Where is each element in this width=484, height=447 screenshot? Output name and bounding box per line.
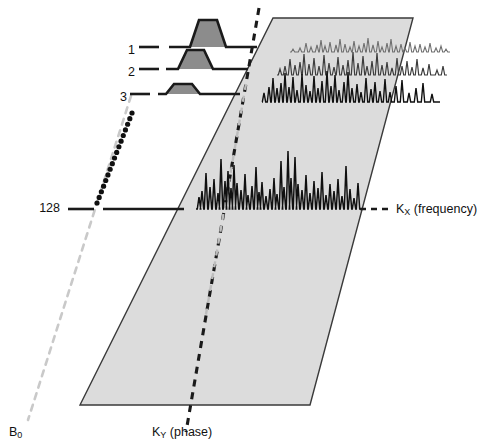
- continuation-dot: [108, 167, 113, 172]
- continuation-dot: [99, 189, 104, 194]
- continuation-dot: [97, 195, 102, 200]
- phase-encode-row-2: [139, 50, 248, 69]
- continuation-dot: [127, 116, 132, 121]
- ky-axis-label-suffix: (phase): [166, 425, 212, 439]
- rows-continuation-dots: [94, 110, 134, 205]
- continuation-dot: [112, 155, 117, 160]
- ky-axis-label: KY (phase): [152, 426, 212, 440]
- row-label-1: 1: [121, 44, 135, 57]
- continuation-dot: [114, 150, 119, 155]
- row-label-3: 3: [113, 91, 127, 104]
- continuation-dot: [94, 200, 99, 205]
- phase-encode-row-3: [130, 84, 240, 94]
- continuation-dot: [129, 110, 134, 115]
- kx-axis-label-suffix: (frequency): [410, 202, 477, 216]
- phase-encode-row-1: [139, 20, 257, 47]
- continuation-dot: [116, 144, 121, 149]
- continuation-dot: [105, 172, 110, 177]
- b0-axis-label: B0: [9, 426, 22, 440]
- continuation-dot: [103, 178, 108, 183]
- continuation-dot: [110, 161, 115, 166]
- kx-axis-label: KX (frequency): [396, 203, 477, 217]
- row-label-128: 128: [28, 202, 60, 215]
- continuation-dot: [101, 184, 106, 189]
- row-label-2: 2: [121, 66, 135, 79]
- continuation-dot: [118, 139, 123, 144]
- b0-axis-label-subscript: 0: [17, 430, 22, 440]
- kspace-diagram: [0, 0, 484, 447]
- continuation-dot: [123, 127, 128, 132]
- continuation-dot: [125, 122, 130, 127]
- continuation-dot: [121, 133, 126, 138]
